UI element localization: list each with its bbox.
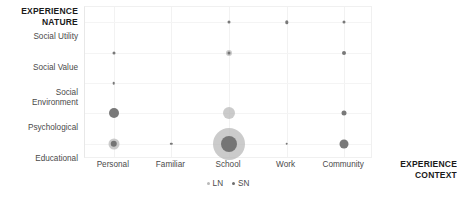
- legend-label: SN: [238, 179, 249, 188]
- gridline-vertical: [344, 7, 345, 157]
- bubble-sn[interactable]: [109, 108, 119, 118]
- x-axis-label: Familiar: [156, 160, 185, 169]
- bubble-sn[interactable]: [285, 143, 288, 146]
- bubble-sn[interactable]: [342, 51, 346, 55]
- legend-item[interactable]: SN: [232, 179, 249, 188]
- legend-dot-icon: [207, 182, 210, 185]
- gridline-vertical: [171, 7, 172, 157]
- x-axis-label: Personal: [97, 160, 129, 169]
- y-axis-label: Social Value: [0, 63, 78, 73]
- bubble-sn[interactable]: [343, 21, 346, 24]
- legend-dot-icon: [232, 182, 235, 185]
- bubble-sn[interactable]: [112, 51, 115, 54]
- bubble-sn[interactable]: [228, 51, 231, 54]
- x-axis-label: Work: [276, 160, 295, 169]
- gridline-horizontal: [85, 83, 371, 84]
- bubble-sn[interactable]: [221, 136, 237, 152]
- bubble-sn[interactable]: [111, 141, 118, 148]
- bubble-sn[interactable]: [113, 82, 116, 85]
- gridline-vertical: [287, 7, 288, 157]
- chart-legend: LNSN: [84, 176, 372, 190]
- bubble-sn[interactable]: [285, 20, 288, 23]
- y-axis-label: Psychological: [0, 124, 78, 134]
- legend-item[interactable]: LN: [207, 179, 223, 188]
- y-axis-label: Educational: [0, 154, 78, 164]
- x-axis-label: Community: [322, 160, 363, 169]
- bubble-sn[interactable]: [342, 111, 347, 116]
- bubble-sn[interactable]: [340, 139, 349, 148]
- x-axis-label: School: [215, 160, 240, 169]
- y-axis-label: Social Environment: [0, 88, 78, 107]
- y-axis-labels: Social UtilitySocial ValueSocial Environ…: [0, 22, 78, 158]
- x-axis-labels: PersonalFamiliarSchoolWorkCommunity: [84, 160, 372, 174]
- x-axis-title: EXPERIENCE CONTEXT: [372, 159, 457, 180]
- bubble-chart: EXPERIENCE NATURE Social UtilitySocial V…: [0, 0, 457, 198]
- legend-label: LN: [213, 179, 223, 188]
- bubble-sn[interactable]: [228, 21, 231, 24]
- plot-area: [84, 6, 372, 158]
- bubble-ln[interactable]: [223, 107, 235, 119]
- y-axis-label: Social Utility: [0, 32, 78, 42]
